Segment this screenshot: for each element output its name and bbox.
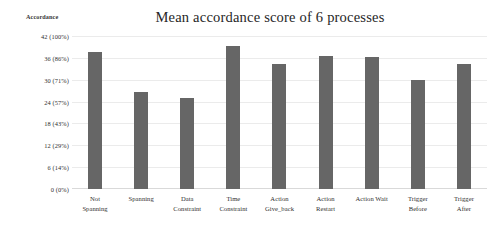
bar-slot	[118, 36, 164, 189]
x-tick-label: NotSpanning	[72, 191, 118, 229]
x-axis-ticks: NotSpanningSpanningDataConstraintTimeCon…	[72, 191, 487, 229]
bar[interactable]	[457, 64, 471, 189]
bar[interactable]	[411, 80, 425, 189]
bar[interactable]	[226, 46, 240, 189]
plot-area	[72, 36, 487, 189]
page-title: Mean accordance score of 6 processes	[130, 9, 410, 26]
x-tick-label: Action Wait	[349, 191, 395, 229]
bar[interactable]	[180, 98, 194, 189]
y-tick-label: 6 (14%)	[7, 164, 69, 171]
bar[interactable]	[319, 56, 333, 189]
bar-slot	[349, 36, 395, 189]
y-tick-label: 12 (29%)	[7, 142, 69, 149]
x-tick-label: TriggerBefore	[395, 191, 441, 229]
x-tick-label: TimeConstraint	[210, 191, 256, 229]
bar-series	[72, 36, 487, 189]
bar-slot	[72, 36, 118, 189]
y-tick-label: 18 (43%)	[7, 120, 69, 127]
bar[interactable]	[272, 64, 286, 189]
bar-slot	[164, 36, 210, 189]
x-tick-label: DataConstraint	[164, 191, 210, 229]
y-tick-label: 24 (57%)	[7, 98, 69, 105]
y-tick-label: 36 (86%)	[7, 54, 69, 61]
x-tick-label: ActionGive_back	[256, 191, 302, 229]
y-tick-label: 42 (100%)	[7, 33, 69, 40]
bar-slot	[395, 36, 441, 189]
bar-slot	[303, 36, 349, 189]
bar[interactable]	[88, 52, 102, 189]
bar[interactable]	[365, 57, 379, 189]
x-tick-label: ActionRestart	[303, 191, 349, 229]
bar-chart: Mean accordance score of 6 processes Acc…	[0, 0, 495, 230]
x-tick-label: TriggerAfter	[441, 191, 487, 229]
bar-slot	[256, 36, 302, 189]
y-axis-title: Accordance	[26, 13, 58, 20]
bar-slot	[210, 36, 256, 189]
bar-slot	[441, 36, 487, 189]
y-tick-label: 30 (71%)	[7, 76, 69, 83]
x-tick-label: Spanning	[118, 191, 164, 229]
bar[interactable]	[134, 92, 148, 189]
y-tick-label: 0 (0%)	[7, 186, 69, 193]
